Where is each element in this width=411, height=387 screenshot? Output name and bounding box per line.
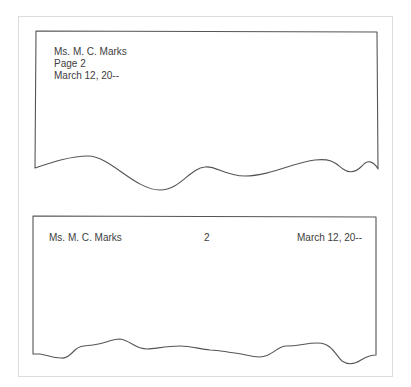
heading-addressee: Ms. M. C. Marks — [49, 232, 122, 244]
torn-page-outline — [0, 0, 411, 387]
heading-page-number: 2 — [204, 232, 210, 244]
heading-date: March 12, 20-- — [297, 232, 362, 244]
page-horizontal-heading: Ms. M. C. Marks 2 March 12, 20-- — [0, 0, 411, 387]
